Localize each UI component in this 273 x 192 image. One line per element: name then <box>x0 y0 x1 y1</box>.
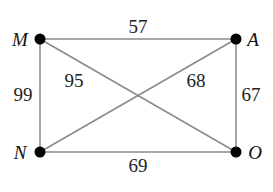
edge-weight-label: 69 <box>129 155 148 176</box>
node-n-dot <box>35 147 46 158</box>
node-a-dot <box>231 34 242 45</box>
edge-weight-label: 67 <box>242 84 261 105</box>
edge-weight-label: 95 <box>65 70 84 91</box>
edge-weight-label: 68 <box>187 70 206 91</box>
node-n-label: N <box>13 142 28 163</box>
node-a-label: A <box>245 29 259 50</box>
edges-group <box>40 39 236 152</box>
weighted-graph-diagram: 579568996769MANO <box>0 0 273 192</box>
node-m-label: M <box>11 29 29 50</box>
node-m-dot <box>35 34 46 45</box>
node-o-dot <box>231 147 242 158</box>
graph-svg: 579568996769MANO <box>0 0 273 192</box>
node-o-label: O <box>248 142 262 163</box>
edge-weight-label: 99 <box>14 84 33 105</box>
edge-weight-label: 57 <box>129 16 148 37</box>
